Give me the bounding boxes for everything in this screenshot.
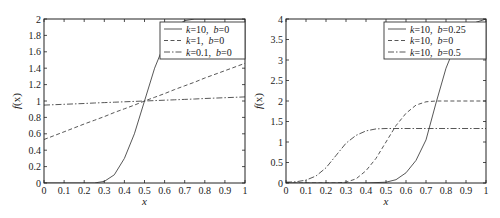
- x-tick-label: 0: [284, 185, 289, 196]
- left-chart: 00.10.20.30.40.50.60.70.80.9100.20.40.60…: [10, 14, 248, 208]
- y-tick-label: 0.8: [29, 112, 42, 123]
- series-line-dashdot: [286, 129, 486, 183]
- x-axis-label: x: [141, 195, 147, 207]
- legend-label: k=10, b=0.5: [410, 47, 461, 58]
- y-tick-label: 3: [278, 55, 283, 66]
- y-tick-label: 4: [278, 14, 283, 25]
- y-tick-label: 1: [36, 96, 41, 107]
- legend-label: k=10, b=0.25: [410, 24, 466, 35]
- y-tick-label: 0.5: [271, 157, 284, 168]
- x-tick-label: 0.1: [58, 185, 71, 196]
- y-tick-label: 0: [278, 178, 283, 189]
- y-tick-label: 1: [278, 137, 283, 148]
- y-tick-label: 2: [278, 96, 283, 107]
- y-axis-label: f(x): [10, 93, 23, 109]
- y-tick-label: 2: [36, 14, 41, 25]
- y-tick-label: 1.4: [29, 63, 42, 74]
- y-tick-label: 0.4: [29, 145, 42, 156]
- x-axis-label: x: [383, 195, 389, 207]
- legend-label: k=10, b=0: [186, 24, 229, 35]
- x-tick-label: 0.7: [420, 185, 433, 196]
- x-tick-label: 1: [484, 185, 489, 196]
- series-line-dashed: [286, 101, 486, 183]
- x-tick-label: 0.2: [78, 185, 91, 196]
- y-tick-label: 1.6: [29, 46, 42, 57]
- y-tick-label: 1.5: [271, 116, 284, 127]
- series-line-dashdot: [44, 97, 245, 105]
- x-tick-label: 0.4: [360, 185, 373, 196]
- x-tick-label: 0: [42, 185, 47, 196]
- y-tick-label: 3.5: [271, 34, 284, 45]
- right-chart: 00.10.20.30.40.50.60.70.80.9100.511.522.…: [252, 14, 489, 208]
- legend-label: k=0.1, b=0: [186, 47, 232, 58]
- x-tick-label: 0.4: [118, 185, 131, 196]
- x-tick-label: 0.1: [300, 185, 313, 196]
- legend: k=10, b=0.25k=10, b=0k=10, b=0.5: [384, 22, 486, 59]
- y-axis-label: f(x): [252, 93, 265, 109]
- x-tick-label: 0.7: [178, 185, 191, 196]
- x-tick-label: 0.9: [219, 185, 232, 196]
- x-tick-label: 0.2: [320, 185, 333, 196]
- y-tick-label: 2.5: [271, 75, 284, 86]
- y-tick-label: 1.8: [29, 30, 42, 41]
- y-tick-label: 1.2: [29, 79, 42, 90]
- y-tick-label: 0: [36, 178, 41, 189]
- y-tick-label: 0.6: [29, 128, 42, 139]
- x-tick-label: 1: [243, 185, 248, 196]
- y-tick-label: 0.2: [29, 161, 42, 172]
- figure: 00.10.20.30.40.50.60.70.80.9100.20.40.60…: [0, 0, 500, 218]
- x-tick-label: 0.9: [460, 185, 473, 196]
- x-tick-label: 0.6: [158, 185, 171, 196]
- x-tick-label: 0.3: [98, 185, 111, 196]
- x-tick-label: 0.3: [340, 185, 353, 196]
- legend-label: k=10, b=0: [410, 35, 453, 46]
- x-tick-label: 0.8: [440, 185, 453, 196]
- x-tick-label: 0.6: [400, 185, 413, 196]
- legend: k=10, b=0k=1, b=0k=0.1, b=0: [160, 22, 245, 59]
- legend-label: k=1, b=0: [186, 35, 224, 46]
- x-tick-label: 0.8: [199, 185, 212, 196]
